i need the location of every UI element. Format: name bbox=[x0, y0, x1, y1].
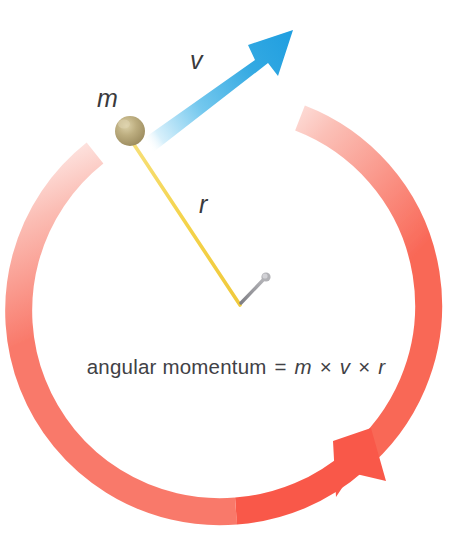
string bbox=[131, 140, 240, 305]
radius-label: r bbox=[199, 190, 207, 219]
equation-equals: = bbox=[272, 355, 288, 378]
equation-times-2: × bbox=[356, 355, 372, 378]
angular-momentum-diagram: m v r angular momentum = m × v × r bbox=[0, 0, 472, 547]
velocity-vector-arrow bbox=[133, 30, 293, 157]
equation-times-1: × bbox=[318, 355, 334, 378]
velocity-label: v bbox=[190, 46, 203, 75]
equation-term-velocity: v bbox=[340, 355, 350, 378]
angular-momentum-equation: angular momentum = m × v × r bbox=[0, 355, 472, 379]
equation-term-radius: r bbox=[378, 355, 385, 378]
mass-label: m bbox=[97, 84, 118, 113]
diagram-canvas bbox=[0, 0, 472, 547]
rotation-direction-arrow bbox=[19, 118, 429, 512]
equation-term-mass: m bbox=[295, 355, 312, 378]
nail-pivot bbox=[241, 272, 271, 303]
equation-left-side: angular momentum bbox=[87, 355, 267, 378]
mass-ball bbox=[115, 116, 145, 146]
